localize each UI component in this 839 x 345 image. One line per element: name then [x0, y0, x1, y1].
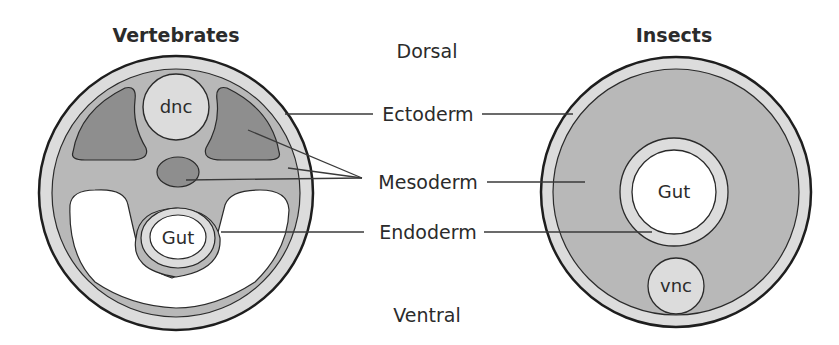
label-ectoderm: Ectoderm	[382, 103, 473, 125]
label-endoderm: Endoderm	[379, 221, 476, 243]
label-vertebrate-gut: Gut	[162, 227, 194, 248]
label-ventral: Ventral	[393, 304, 460, 326]
label-vnc: vnc	[660, 275, 692, 296]
vertebrate-notochord	[157, 157, 199, 187]
label-dnc: dnc	[160, 96, 193, 117]
title-insects: Insects	[636, 24, 712, 46]
label-mesoderm: Mesoderm	[378, 171, 477, 193]
germ-layer-diagram: Vertebrates Insects Dorsal Ventral Ectod…	[0, 0, 839, 345]
title-vertebrates: Vertebrates	[113, 24, 240, 46]
label-dorsal: Dorsal	[397, 40, 458, 62]
label-insect-gut: Gut	[658, 181, 690, 202]
